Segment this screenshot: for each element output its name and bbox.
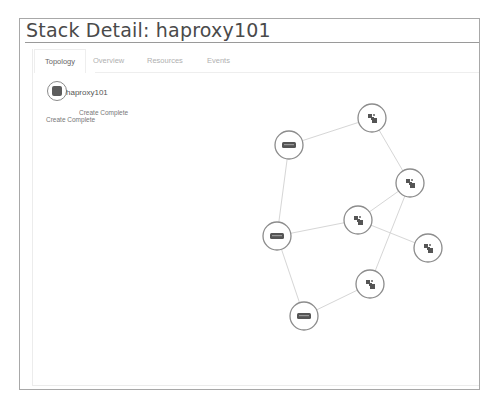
server-icon <box>282 142 296 148</box>
topology-node-server[interactable] <box>275 131 303 159</box>
topology-nodes <box>263 104 442 330</box>
topology-node-network[interactable] <box>356 270 384 298</box>
server-icon <box>297 313 311 319</box>
server-icon <box>270 233 284 239</box>
topology-node-network[interactable] <box>358 104 386 132</box>
topology-node-network[interactable] <box>396 169 424 197</box>
topology-edge <box>370 183 410 284</box>
topology-node-network[interactable] <box>414 234 442 262</box>
topology-node-server[interactable] <box>290 302 318 330</box>
topology-node-network[interactable] <box>344 206 372 234</box>
topology-node-server[interactable] <box>263 222 291 250</box>
topology-graph <box>0 0 496 407</box>
